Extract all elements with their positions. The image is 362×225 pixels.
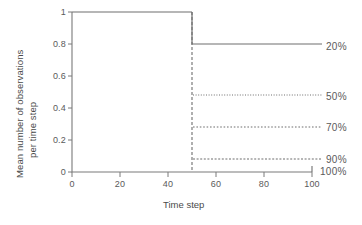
- chart-figure: Mean number of observations per time ste…: [0, 0, 362, 225]
- x-tick-marks: [72, 172, 312, 177]
- series-line-20: [192, 12, 322, 44]
- plot-area: [0, 0, 362, 225]
- y-tick-marks: [68, 12, 72, 172]
